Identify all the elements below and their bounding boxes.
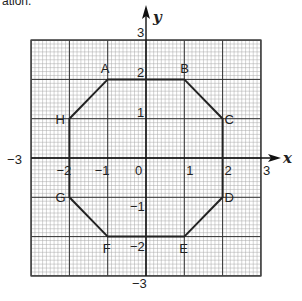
vertex-label-g: G xyxy=(55,190,65,205)
x-tick-label: 1 xyxy=(186,163,193,178)
coordinate-diagram: ation. −3−2−10123321−1−2−3 ABCDEFGH x y xyxy=(0,0,302,301)
y-axis-label: y xyxy=(152,8,163,26)
x-tick-label: −3 xyxy=(7,152,22,167)
y-tick-label: −3 xyxy=(132,276,147,291)
y-tick-label: 2 xyxy=(137,65,144,80)
vertex-label-a: A xyxy=(101,61,110,76)
vertex-label-d: D xyxy=(225,190,234,205)
x-axis-label: x xyxy=(282,149,293,167)
y-tick-label: −1 xyxy=(130,199,145,214)
coordinate-plane: −3−2−10123321−1−2−3 ABCDEFGH x y xyxy=(0,0,302,301)
x-tick-label: 2 xyxy=(225,163,232,178)
vertex-label-h: H xyxy=(55,112,64,127)
x-tick-label: −2 xyxy=(56,163,71,178)
vertex-label-b: B xyxy=(180,61,189,76)
vertex-label-f: F xyxy=(103,241,111,256)
vertex-label-e: E xyxy=(179,241,188,256)
y-tick-label: 3 xyxy=(137,25,144,40)
x-tick-label: 0 xyxy=(135,163,142,178)
y-tick-label: −2 xyxy=(130,239,145,254)
caption-fragment: ation. xyxy=(2,0,31,8)
x-tick-label: 3 xyxy=(263,163,270,178)
vertex-label-c: C xyxy=(225,112,234,127)
y-tick-label: 1 xyxy=(137,105,144,120)
x-tick-label: −1 xyxy=(95,163,110,178)
